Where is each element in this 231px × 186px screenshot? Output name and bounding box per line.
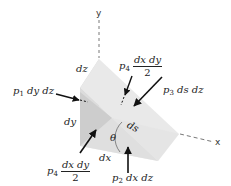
y-axis-label: y <box>96 8 101 18</box>
p2-label: p2 dx dz <box>112 173 153 185</box>
p3-label: p3 ds dz <box>163 85 203 97</box>
p1-label: p1 dy dz <box>13 86 54 98</box>
p1-arrow <box>56 94 79 100</box>
p3-arrow <box>134 77 162 106</box>
x-axis-label: x <box>215 137 220 147</box>
p4-top-label: p4 dx dy 2 <box>119 55 162 78</box>
dy-label: dy <box>64 117 76 127</box>
x-axis <box>180 134 214 142</box>
theta-label: θ <box>110 133 116 143</box>
dz-label: dz <box>76 64 88 74</box>
dx-label: dx <box>99 153 111 163</box>
p4-bottom-label: p4 dx dy 2 <box>47 160 90 183</box>
